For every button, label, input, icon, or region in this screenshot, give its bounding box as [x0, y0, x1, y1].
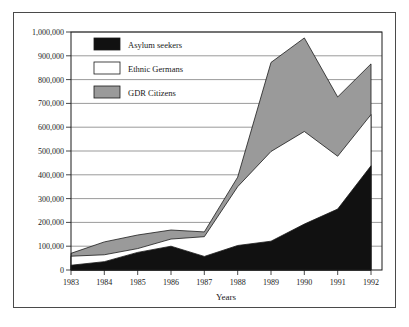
xtick-label-1988: 1988 — [230, 278, 246, 287]
x-axis-tick-labels: 1983 1984 1985 1986 1987 1988 1989 1990 … — [63, 278, 379, 287]
stacked-area-chart: 1,000,000 900,000 800,000 700,000 600,00… — [0, 0, 409, 327]
ytick-label-400000: 400,000 — [38, 171, 64, 180]
xtick-label-1985: 1985 — [130, 278, 146, 287]
legend-label-asylum-seekers: Asylum seekers — [128, 40, 182, 50]
x-axis-title: Years — [216, 292, 237, 302]
legend-label-gdr-citizens: GDR Citizens — [128, 88, 176, 98]
ytick-label-500000: 500,000 — [38, 147, 64, 156]
ytick-label-200000: 200,000 — [38, 218, 64, 227]
xtick-label-1986: 1986 — [163, 278, 179, 287]
legend-swatch-asylum-seekers — [94, 38, 120, 50]
chart-legend: Asylum seekers Ethnic Germans GDR Citize… — [94, 38, 183, 98]
legend-swatch-ethnic-germans — [94, 62, 120, 74]
xtick-label-1992: 1992 — [363, 278, 379, 287]
ytick-label-100000: 100,000 — [38, 242, 64, 251]
x-axis-ticks — [71, 270, 371, 275]
ytick-label-300000: 300,000 — [38, 195, 64, 204]
chart-canvas: 1,000,000 900,000 800,000 700,000 600,00… — [0, 0, 409, 327]
xtick-label-1989: 1989 — [263, 278, 279, 287]
xtick-label-1987: 1987 — [196, 278, 212, 287]
legend-swatch-gdr-citizens — [94, 86, 120, 98]
ytick-label-0: 0 — [60, 266, 64, 275]
y-axis-tick-labels: 1,000,000 900,000 800,000 700,000 600,00… — [32, 28, 64, 275]
ytick-label-1000000: 1,000,000 — [32, 28, 64, 37]
ytick-label-700000: 700,000 — [38, 99, 64, 108]
xtick-label-1990: 1990 — [296, 278, 312, 287]
xtick-label-1983: 1983 — [63, 278, 79, 287]
ytick-label-900000: 900,000 — [38, 52, 64, 61]
ytick-label-800000: 800,000 — [38, 76, 64, 85]
legend-label-ethnic-germans: Ethnic Germans — [128, 64, 183, 74]
y-axis-ticks — [66, 32, 71, 270]
xtick-label-1984: 1984 — [96, 278, 112, 287]
xtick-label-1991: 1991 — [330, 278, 346, 287]
ytick-label-600000: 600,000 — [38, 123, 64, 132]
